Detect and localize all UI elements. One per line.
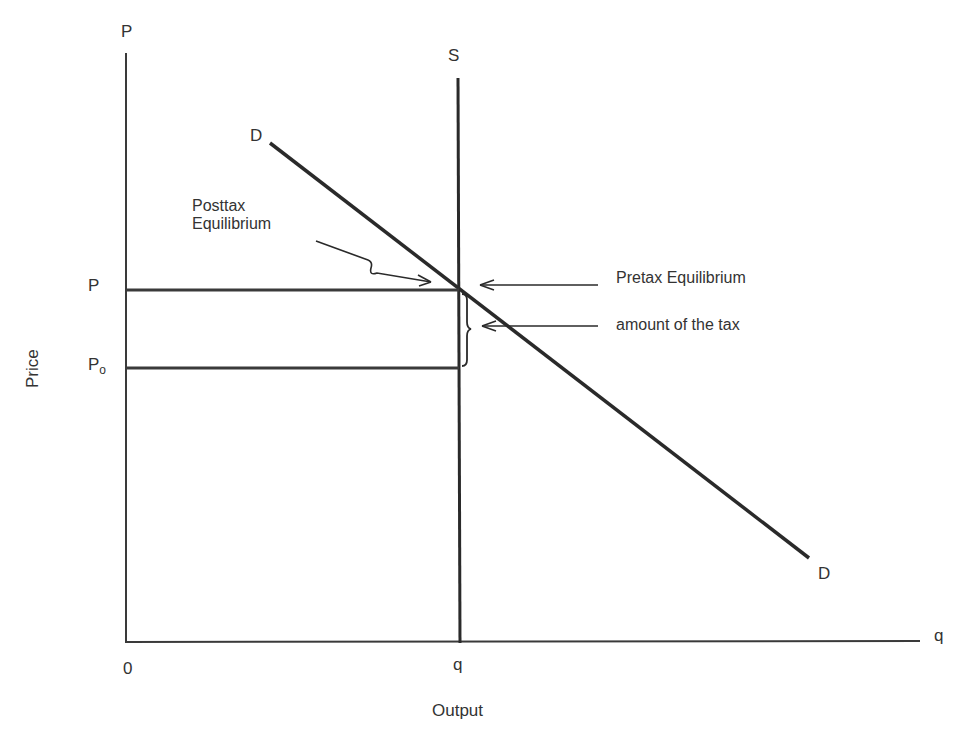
tax-brace: [462, 294, 471, 366]
origin-label: 0: [123, 660, 132, 677]
x-axis-label: q: [934, 627, 943, 644]
x-axis-title: Output: [432, 702, 483, 719]
diagram-canvas: [0, 0, 967, 737]
supply-label: S: [448, 47, 459, 64]
price-p0-label: Po: [88, 356, 106, 376]
demand-label-top: D: [250, 127, 262, 144]
supply-curve: [458, 78, 460, 643]
x-axis: [126, 641, 920, 642]
demand-label-bottom: D: [818, 565, 830, 582]
posttax-label-line1: Posttax: [192, 198, 245, 214]
price-p0-subscript: o: [99, 363, 106, 377]
quantity-q-label: q: [453, 656, 462, 673]
pretax-label: Pretax Equilibrium: [616, 270, 746, 286]
y-axis-label: P: [121, 23, 132, 40]
price-p-label: P: [88, 277, 99, 294]
y-axis-title: Price: [24, 349, 41, 388]
tax-amount-label: amount of the tax: [616, 317, 740, 333]
posttax-label-line2: Equilibrium: [192, 216, 271, 232]
demand-curve: [270, 143, 809, 558]
posttax-arrow: [316, 241, 431, 282]
price-p0-main: P: [88, 355, 99, 374]
